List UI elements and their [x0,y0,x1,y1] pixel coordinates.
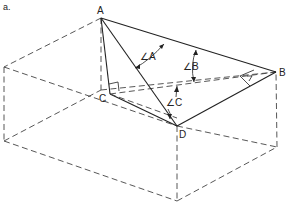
box-edge-right-vertical [276,72,277,147]
angle-label-b: ∠B [183,61,199,72]
vertex-label-a: A [97,5,104,16]
box-edge-bottom-front [4,141,177,201]
angle-b-vertex-mark [240,70,254,86]
angle-label-a: ∠A [140,51,156,62]
vertex-label-c: C [99,93,106,104]
vertex-label-d: D [179,129,186,140]
angle-b-vertex-glyph [247,76,252,81]
dashed-box [4,18,277,201]
box-edge-hidden-bottom-left [4,90,101,141]
panel-label: a. [3,2,11,12]
angle-c-arrow-top [174,86,179,92]
box-edge-top-right-lower [177,126,277,147]
box-edge-hidden-back [101,72,276,90]
line-a-d [101,18,177,126]
angle-b-vertex-bracket [240,70,254,86]
box-edge-top-front [4,67,177,126]
line-d-b [177,72,276,126]
box-edge-top-left [4,18,101,67]
box-edge-bottom-right [177,147,277,201]
geometry-diagram: a. A B C D ∠A ∠B ∠C [0,0,288,205]
angle-label-c: ∠C [166,97,182,108]
right-angle-marker [109,82,119,91]
vertex-label-b: B [279,67,286,78]
